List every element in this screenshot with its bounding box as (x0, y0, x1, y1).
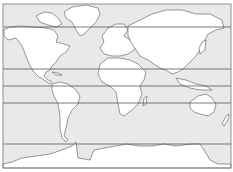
world-map (0, 0, 233, 172)
